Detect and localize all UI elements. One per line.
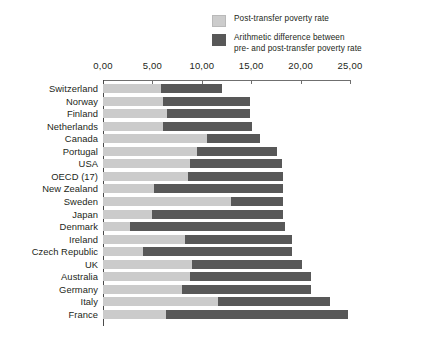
bar-segment-difference bbox=[190, 159, 282, 168]
plot-area: SwitzerlandNorwayFinlandNetherlandsCanad… bbox=[0, 0, 436, 340]
bar-segment-post-transfer bbox=[103, 285, 182, 294]
category-label-text: Sweden bbox=[6, 196, 98, 207]
category-label-japan: Japan bbox=[6, 209, 98, 220]
bar-segment-difference bbox=[192, 260, 302, 269]
bar-segment-post-transfer bbox=[103, 134, 207, 143]
bar-segment-post-transfer bbox=[103, 147, 197, 156]
category-label-netherlands: Netherlands bbox=[6, 121, 98, 132]
category-label-text: Italy bbox=[6, 296, 98, 307]
bar-segment-difference bbox=[231, 197, 282, 206]
category-label-oecd-17: OECD (17) bbox=[6, 171, 98, 182]
category-label-text: France bbox=[6, 309, 98, 320]
bar-segment-difference bbox=[163, 122, 252, 131]
bar-segment-difference bbox=[163, 97, 250, 106]
category-label-uk: UK bbox=[6, 259, 98, 270]
category-label-italy: Italy bbox=[6, 296, 98, 307]
bar-segment-difference bbox=[197, 147, 277, 156]
category-label-text: Norway bbox=[6, 96, 98, 107]
x-axis-tick bbox=[251, 80, 252, 84]
bar-segment-post-transfer bbox=[103, 184, 154, 193]
category-label-new-zealand: New Zealand bbox=[6, 183, 98, 194]
category-label-text: UK bbox=[6, 259, 98, 270]
bar-segment-post-transfer bbox=[103, 235, 185, 244]
bar-segment-difference bbox=[130, 222, 285, 231]
category-label-text: New Zealand bbox=[6, 183, 98, 194]
category-label-czech-republic: Czech Republic bbox=[6, 246, 98, 257]
category-label-canada: Canada bbox=[6, 133, 98, 144]
category-label-text: Czech Republic bbox=[6, 246, 98, 257]
bar-segment-post-transfer bbox=[103, 172, 188, 181]
bar-segment-post-transfer bbox=[103, 97, 163, 106]
category-label-germany: Germany bbox=[6, 284, 98, 295]
bar-segment-difference bbox=[185, 235, 292, 244]
bar-segment-difference bbox=[152, 210, 282, 219]
category-label-text: Finland bbox=[6, 108, 98, 119]
bar-segment-post-transfer bbox=[103, 159, 190, 168]
category-label-text: Switzerland bbox=[6, 83, 98, 94]
category-label-australia: Australia bbox=[6, 271, 98, 282]
category-label-denmark: Denmark bbox=[6, 221, 98, 232]
bar-segment-difference bbox=[154, 184, 282, 193]
bar-segment-difference bbox=[182, 285, 311, 294]
bar-segment-post-transfer bbox=[103, 222, 130, 231]
category-label-text: Denmark bbox=[6, 221, 98, 232]
bar-segment-difference bbox=[218, 297, 331, 306]
bar-segment-difference bbox=[207, 134, 260, 143]
bar-segment-post-transfer bbox=[103, 197, 231, 206]
bar-segment-difference bbox=[143, 247, 292, 256]
bar-segment-post-transfer bbox=[103, 297, 218, 306]
x-axis-tick bbox=[301, 80, 302, 84]
bar-segment-post-transfer bbox=[103, 260, 192, 269]
category-label-text: Ireland bbox=[6, 234, 98, 245]
x-axis-line bbox=[103, 80, 350, 81]
bar-segment-post-transfer bbox=[103, 247, 143, 256]
bar-segment-post-transfer bbox=[103, 310, 166, 319]
category-label-text: Canada bbox=[6, 133, 98, 144]
category-label-text: USA bbox=[6, 158, 98, 169]
category-label-portugal: Portugal bbox=[6, 146, 98, 157]
bar-segment-post-transfer bbox=[103, 122, 163, 131]
category-label-text: OECD (17) bbox=[6, 171, 98, 182]
category-label-france: France bbox=[6, 309, 98, 320]
category-label-switzerland: Switzerland bbox=[6, 83, 98, 94]
category-label-text: Germany bbox=[6, 284, 98, 295]
category-label-text: Japan bbox=[6, 209, 98, 220]
chart-container: Post-transfer poverty rate Arithmetic di… bbox=[0, 0, 436, 340]
bar-segment-difference bbox=[161, 84, 221, 93]
category-label-text: Netherlands bbox=[6, 121, 98, 132]
category-label-text: Portugal bbox=[6, 146, 98, 157]
x-axis-tick bbox=[350, 80, 351, 84]
category-label-finland: Finland bbox=[6, 108, 98, 119]
category-label-norway: Norway bbox=[6, 96, 98, 107]
bar-segment-post-transfer bbox=[103, 109, 167, 118]
bar-segment-difference bbox=[166, 310, 348, 319]
bar-segment-difference bbox=[190, 272, 312, 281]
bar-segment-post-transfer bbox=[103, 84, 161, 93]
bar-segment-post-transfer bbox=[103, 210, 152, 219]
category-label-text: Australia bbox=[6, 271, 98, 282]
bar-segment-post-transfer bbox=[103, 272, 190, 281]
category-label-usa: USA bbox=[6, 158, 98, 169]
bar-segment-difference bbox=[167, 109, 250, 118]
category-label-ireland: Ireland bbox=[6, 234, 98, 245]
category-label-sweden: Sweden bbox=[6, 196, 98, 207]
bar-segment-difference bbox=[188, 172, 283, 181]
